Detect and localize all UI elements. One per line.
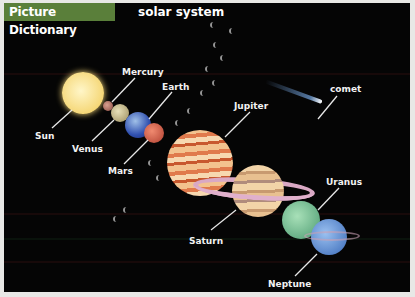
label-uranus: Uranus <box>326 177 362 187</box>
label-sun: Sun <box>35 131 54 141</box>
label-saturn: Saturn <box>189 236 223 246</box>
label-comet: comet <box>330 84 361 94</box>
label-earth: Earth <box>162 82 189 92</box>
label-neptune: Neptune <box>268 279 311 289</box>
label-mars: Mars <box>108 166 133 176</box>
label-jupiter: Jupiter <box>234 101 268 111</box>
label-mercury: Mercury <box>122 67 164 77</box>
leader-lines <box>0 0 415 297</box>
label-venus: Venus <box>72 144 103 154</box>
